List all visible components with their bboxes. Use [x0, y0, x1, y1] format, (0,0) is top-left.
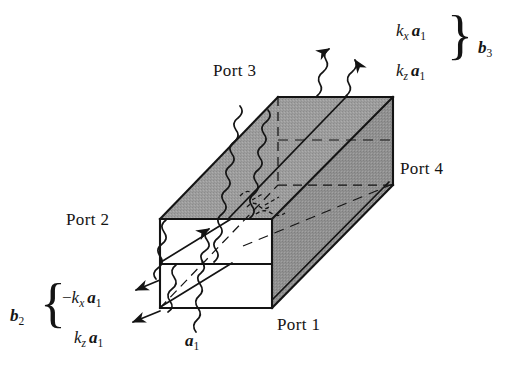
kz-symbol: k — [74, 328, 82, 347]
a-symbol: a — [89, 328, 98, 347]
kx-symbol: k — [72, 288, 80, 307]
ray-b3-upper — [317, 49, 329, 96]
a-symbol: a — [87, 288, 96, 307]
a-subscript: 1 — [420, 30, 426, 42]
b3-symbol: b — [478, 38, 487, 57]
a-subscript: 1 — [420, 70, 426, 82]
waveguide-body — [160, 96, 393, 308]
ray-b2-upper-out — [136, 280, 160, 290]
brace-b3: } — [447, 8, 473, 62]
annotation-b3-label: b3 — [478, 39, 492, 59]
kx-symbol: k — [396, 21, 404, 40]
ray-b3-lower — [346, 60, 356, 96]
annotation-incident-a1: a1 — [185, 332, 199, 352]
kz-subscript: z — [404, 70, 408, 82]
port-label-port1: Port 1 — [277, 316, 321, 333]
annotation-kz-a1-out: kza1 — [396, 62, 425, 82]
a-subscript: 1 — [98, 337, 104, 349]
annotation-kz-a1-out-b2: kza1 — [74, 329, 103, 349]
kz-symbol: k — [396, 61, 404, 80]
b2-symbol: b — [10, 306, 19, 325]
a-subscript: 1 — [96, 297, 102, 309]
kz-subscript: z — [82, 337, 86, 349]
minus-sign: − — [62, 288, 72, 307]
annotation-kx-a1-out: kxa1 — [396, 22, 426, 42]
kx-subscript: x — [404, 30, 409, 42]
annotation-b2-label: b2 — [10, 307, 24, 327]
a-symbol: a — [412, 21, 421, 40]
b3-subscript: 3 — [487, 47, 493, 59]
a-symbol: a — [411, 61, 420, 80]
ray-b2-lower-out — [133, 311, 160, 322]
a1-subscript: 1 — [194, 340, 200, 352]
a1-symbol: a — [185, 331, 194, 350]
diagram-canvas — [0, 0, 516, 379]
port-label-port2: Port 2 — [66, 211, 110, 228]
port-label-port3: Port 3 — [213, 62, 257, 79]
port-label-port4: Port 4 — [400, 160, 444, 177]
kx-subscript: x — [79, 297, 84, 309]
b2-subscript: 2 — [19, 315, 25, 327]
waveguide-diagram: Port 3 Port 4 Port 2 Port 1 kxa1 kza1 } … — [0, 0, 516, 379]
annotation-neg-kx-a1-out: −kxa1 — [62, 289, 102, 309]
